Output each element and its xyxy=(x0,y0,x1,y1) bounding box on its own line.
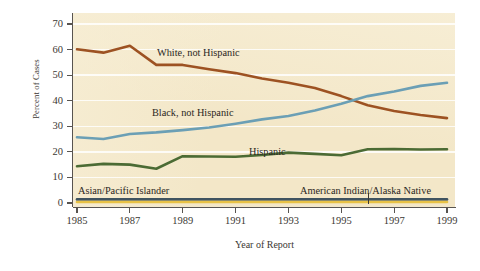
x-tick-1987 xyxy=(129,208,130,213)
y-tick-60 xyxy=(67,49,72,50)
y-tick-label-40: 40 xyxy=(23,96,63,107)
y-tick-label-50: 50 xyxy=(23,70,63,81)
x-tick-label-1989: 1989 xyxy=(160,216,206,227)
series-line-white-not-hispanic xyxy=(77,46,447,118)
series-lines-group xyxy=(73,13,455,207)
x-tick-label-1999: 1999 xyxy=(424,216,470,227)
x-tick-1999 xyxy=(446,208,447,213)
y-axis-title: Percent of Cases xyxy=(31,29,41,149)
x-tick-label-1985: 1985 xyxy=(54,216,100,227)
x-tick-label-1993: 1993 xyxy=(265,216,311,227)
chart-figure: 010203040506070 198519871989199119931995… xyxy=(0,0,480,271)
x-tick-1997 xyxy=(394,208,395,213)
x-axis-line xyxy=(73,207,456,208)
series-label-white-not-hispanic: White, not Hispanic xyxy=(157,48,240,58)
x-tick-label-1991: 1991 xyxy=(213,216,259,227)
x-axis-title: Year of Report xyxy=(73,239,456,250)
series-label-asian-pacific-islander: Asian/Pacific Islander xyxy=(78,186,169,196)
y-tick-10 xyxy=(67,177,72,178)
y-tick-label-10: 10 xyxy=(23,172,63,183)
y-tick-30 xyxy=(67,126,72,127)
x-tick-label-1997: 1997 xyxy=(371,216,417,227)
x-tick-1985 xyxy=(76,208,77,213)
x-tick-1993 xyxy=(288,208,289,213)
y-tick-label-20: 20 xyxy=(23,147,63,158)
x-tick-1995 xyxy=(341,208,342,213)
series-label-hispanic: Hispanic xyxy=(249,147,286,157)
x-tick-1989 xyxy=(182,208,183,213)
y-tick-label-60: 60 xyxy=(23,45,63,56)
x-tick-label-1995: 1995 xyxy=(318,216,364,227)
x-tick-label-1987: 1987 xyxy=(107,216,153,227)
y-axis-line xyxy=(72,13,73,207)
y-tick-50 xyxy=(67,75,72,76)
y-tick-label-70: 70 xyxy=(23,19,63,30)
y-tick-40 xyxy=(67,100,72,101)
series-label-american-indian-alaska-native: American Indian/Alaska Native xyxy=(300,186,431,196)
american-indian-leader-line xyxy=(368,193,369,204)
y-tick-label-30: 30 xyxy=(23,121,63,132)
y-tick-label-0: 0 xyxy=(23,198,63,209)
y-tick-70 xyxy=(67,23,72,24)
series-label-black-not-hispanic: Black, not Hispanic xyxy=(152,108,234,118)
y-tick-20 xyxy=(67,151,72,152)
x-tick-1991 xyxy=(235,208,236,213)
y-tick-0 xyxy=(67,202,72,203)
plot-area xyxy=(73,13,455,207)
